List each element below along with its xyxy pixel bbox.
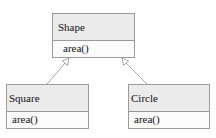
class-method: area() [7, 112, 88, 128]
uml-diagram-canvas: Shape area() Square area() Circle area() [0, 0, 216, 138]
class-method: area() [53, 41, 134, 57]
hollow-triangle-arrowhead-icon [63, 58, 70, 66]
class-box-circle[interactable]: Circle area() [128, 84, 210, 129]
class-box-shape[interactable]: Shape area() [52, 13, 135, 58]
class-method: area() [129, 112, 209, 128]
class-box-square[interactable]: Square area() [6, 84, 89, 129]
hollow-triangle-arrowhead-icon [122, 58, 129, 66]
class-name: Square [7, 85, 88, 112]
arrow-square-to-shape [47, 58, 69, 84]
class-name: Shape [53, 14, 134, 41]
class-name: Circle [129, 85, 209, 112]
arrow-circle-to-shape [122, 58, 147, 84]
